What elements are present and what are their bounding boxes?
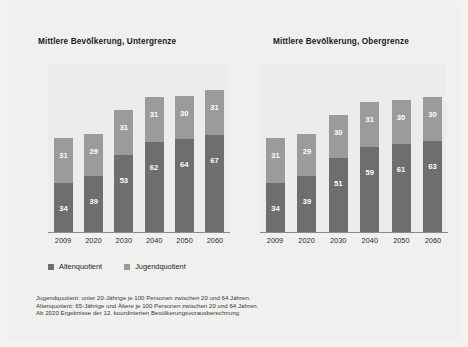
x-axis-line-right — [260, 232, 448, 233]
chart-card: Mittlere Bevölkerung, Untergrenze Mittle… — [8, 6, 460, 341]
bar-segment-altenquotient: 34 — [266, 183, 285, 232]
bar-value-label: 39 — [297, 198, 316, 206]
bar-value-label: 67 — [205, 157, 224, 165]
bar-value-label: 30 — [392, 114, 411, 122]
bar-value-label: 63 — [423, 163, 442, 171]
footnote-line: Jugendquotient: unter 20-Jährige je 100 … — [36, 294, 436, 302]
footnote-block: Jugendquotient: unter 20-Jährige je 100 … — [36, 294, 436, 317]
bar-value-label: 29 — [84, 148, 103, 156]
bar-value-label: 53 — [114, 177, 133, 185]
bar-value-label: 34 — [54, 205, 73, 213]
bar-segment-altenquotient: 34 — [54, 183, 73, 232]
bar-value-label: 64 — [175, 161, 194, 169]
bar-group: 3064 — [175, 64, 194, 232]
bar-group: 3159 — [360, 64, 379, 232]
bar-value-label: 51 — [329, 180, 348, 188]
bar-value-label: 61 — [392, 166, 411, 174]
bar-value-label: 30 — [423, 111, 442, 119]
bar-value-label: 31 — [145, 111, 164, 119]
x-tick-label: 2030 — [109, 236, 139, 248]
bar-group: 3153 — [114, 64, 133, 232]
bar-segment-jugendquotient: 31 — [266, 138, 285, 183]
footnote-line: Ab 2020 Ergebnisse der 12. koordinierten… — [36, 309, 436, 317]
legend-swatch-icon-jugendquotient — [124, 264, 130, 270]
bar-segment-altenquotient: 39 — [84, 176, 103, 232]
bar-segment-altenquotient: 62 — [145, 142, 164, 232]
x-tick-label: 2040 — [355, 236, 385, 248]
bar-group: 3134 — [266, 64, 285, 232]
chart-title-right: Mittlere Bevölkerung, Obergrenze — [273, 37, 409, 46]
bar-segment-altenquotient: 59 — [360, 147, 379, 232]
legend-label-altenquotient: Altenquotient — [59, 262, 102, 271]
bar-segment-altenquotient: 63 — [423, 141, 442, 232]
legend-item-jugendquotient: Jugendquotient — [124, 262, 186, 271]
legend-label-jugendquotient: Jugendquotient — [135, 262, 186, 271]
bar-segment-altenquotient: 39 — [297, 176, 316, 232]
bar-segment-altenquotient: 53 — [114, 155, 133, 232]
x-tick-label: 2030 — [323, 236, 353, 248]
bar-group: 3134 — [54, 64, 73, 232]
bar-segment-jugendquotient: 31 — [205, 90, 224, 135]
legend-swatch-icon-altenquotient — [48, 264, 54, 270]
bar-value-label: 31 — [114, 124, 133, 132]
bar-segment-altenquotient: 67 — [205, 135, 224, 232]
bar-group: 3162 — [145, 64, 164, 232]
bar-value-label: 39 — [84, 198, 103, 206]
bar-value-label: 59 — [360, 169, 379, 177]
x-axis-line-left — [48, 232, 230, 233]
x-tick-label: 2050 — [170, 236, 200, 248]
bar-segment-jugendquotient: 31 — [360, 102, 379, 147]
x-tick-label: 2060 — [418, 236, 448, 248]
bar-value-label: 31 — [54, 152, 73, 160]
bar-segment-jugendquotient: 29 — [84, 134, 103, 176]
bar-segment-jugendquotient: 31 — [145, 97, 164, 142]
footnote-line: Altenquotient: 65-Jährige und Ältere je … — [36, 302, 436, 310]
bar-segment-jugendquotient: 31 — [54, 138, 73, 183]
x-tick-label: 2050 — [386, 236, 416, 248]
bar-segment-jugendquotient: 29 — [297, 134, 316, 176]
chart-legend: Altenquotient Jugendquotient — [48, 262, 208, 271]
x-tick-label: 2060 — [200, 236, 230, 248]
bar-series-left: 313429393153316230643167 — [54, 64, 224, 232]
bar-segment-jugendquotient: 30 — [175, 96, 194, 139]
bar-segment-jugendquotient: 30 — [329, 115, 348, 158]
bar-group: 3063 — [423, 64, 442, 232]
bar-segment-jugendquotient: 31 — [114, 110, 133, 155]
chart-title-left: Mittlere Bevölkerung, Untergrenze — [38, 37, 176, 46]
bar-value-label: 30 — [329, 129, 348, 137]
bar-value-label: 29 — [297, 148, 316, 156]
legend-item-altenquotient: Altenquotient — [48, 262, 102, 271]
bar-group: 3051 — [329, 64, 348, 232]
bar-group: 3061 — [392, 64, 411, 232]
x-tick-labels-right: 200920202030204020502060 — [260, 236, 448, 248]
bar-value-label: 31 — [205, 104, 224, 112]
x-tick-labels-left: 200920202030204020502060 — [48, 236, 230, 248]
bar-group: 2939 — [84, 64, 103, 232]
bar-value-label: 62 — [145, 164, 164, 172]
bar-segment-jugendquotient: 30 — [423, 97, 442, 140]
bar-value-label: 31 — [266, 152, 285, 160]
x-tick-label: 2020 — [292, 236, 322, 248]
bar-segment-altenquotient: 51 — [329, 158, 348, 232]
bar-value-label: 30 — [175, 110, 194, 118]
bar-segment-altenquotient: 64 — [175, 139, 194, 232]
bar-group: 3167 — [205, 64, 224, 232]
bar-segment-jugendquotient: 30 — [392, 100, 411, 143]
x-tick-label: 2040 — [139, 236, 169, 248]
x-tick-label: 2009 — [48, 236, 78, 248]
bar-segment-altenquotient: 61 — [392, 144, 411, 232]
x-tick-label: 2009 — [260, 236, 290, 248]
bar-series-right: 313429393051315930613063 — [266, 64, 442, 232]
bar-group: 2939 — [297, 64, 316, 232]
bar-value-label: 31 — [360, 116, 379, 124]
bar-value-label: 34 — [266, 205, 285, 213]
x-tick-label: 2020 — [78, 236, 108, 248]
poster-background: Mittlere Bevölkerung, Untergrenze Mittle… — [0, 0, 468, 347]
